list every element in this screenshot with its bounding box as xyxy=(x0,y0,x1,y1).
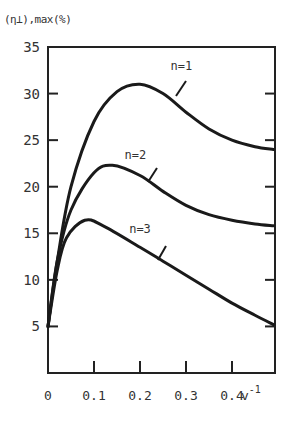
series-line-n3 xyxy=(48,220,273,327)
series-line-n2 xyxy=(48,165,273,326)
leader-line xyxy=(158,246,166,260)
leader-line xyxy=(176,81,186,96)
y-tick-label: 25 xyxy=(23,132,40,148)
y-tick-label: 10 xyxy=(23,272,40,288)
y-tick-label: 35 xyxy=(23,39,40,55)
x-tick-label: 0 xyxy=(44,388,52,403)
y-axis-ticks: 5101520253035 xyxy=(23,39,275,334)
y-tick-label: 30 xyxy=(23,86,40,102)
x-axis-label: v-1 xyxy=(241,384,261,403)
y-tick-label: 20 xyxy=(23,179,40,195)
x-tick-label: 0.3 xyxy=(174,388,197,403)
leader-line xyxy=(148,168,157,182)
x-tick-label: 0.1 xyxy=(82,388,105,403)
y-tick-label: 15 xyxy=(23,225,40,241)
plot-frame xyxy=(48,47,275,373)
line-chart: 5101520253035 00.10.20.30.4 n=1n=2n=3 v-… xyxy=(0,0,295,426)
x-tick-label: 0.2 xyxy=(128,388,151,403)
series-label: n=3 xyxy=(129,222,151,236)
series-label: n=1 xyxy=(171,59,193,73)
series-line-n1 xyxy=(48,84,273,326)
y-tick-label: 5 xyxy=(32,318,40,334)
series-curves xyxy=(48,84,273,326)
x-axis-ticks: 00.10.20.30.4 xyxy=(44,361,244,403)
series-label: n=2 xyxy=(125,148,147,162)
